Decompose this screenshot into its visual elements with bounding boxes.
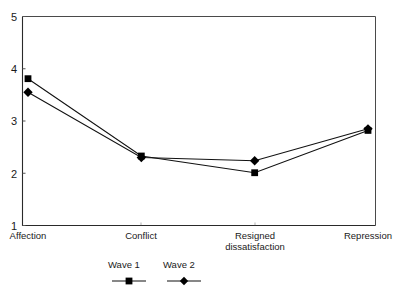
- y-tick-label-2: 2: [11, 168, 17, 180]
- legend-label-wave-1: Wave 1: [108, 259, 140, 270]
- data-point-wave1-affection: [25, 75, 32, 82]
- series-wave-2: [23, 88, 372, 166]
- x-axis-label-repression: Repression: [344, 230, 392, 241]
- x-axis-label-resigned-dissatisfaction-line2: dissatisfaction: [225, 241, 285, 252]
- y-tick-label-5: 5: [11, 11, 17, 23]
- series-wave-1: [25, 75, 372, 176]
- square-marker: [126, 278, 133, 285]
- data-point-wave2-affection: [23, 88, 32, 97]
- diamond-marker: [180, 277, 188, 286]
- x-axis-label-resigned-dissatisfaction-line1: Resigned: [235, 230, 275, 241]
- legend-marker-wave-1: [112, 278, 146, 285]
- legend-label-wave-2: Wave 2: [163, 259, 195, 270]
- y-tick-label-3: 3: [11, 115, 17, 127]
- x-axis-label-affection: Affection: [10, 230, 47, 241]
- y-tick-label-4: 4: [11, 63, 17, 75]
- series-wave-2-line: [28, 92, 368, 160]
- legend-marker-wave-2: [167, 277, 201, 286]
- x-axis-label-conflict: Conflict: [125, 230, 157, 241]
- data-point-wave1-resigned-dissatisfaction: [251, 169, 258, 176]
- data-point-wave2-resigned-dissatisfaction: [250, 156, 259, 165]
- x-axis-labels: Affection Conflict Resigned dissatisfact…: [10, 230, 392, 252]
- chart-legend: Wave 1 Wave 2: [108, 259, 201, 285]
- y-axis-labels: 5 4 3 2 1: [11, 11, 17, 232]
- line-chart: 5 4 3 2 1 Affection: [0, 0, 399, 293]
- plot-frame: [23, 17, 376, 226]
